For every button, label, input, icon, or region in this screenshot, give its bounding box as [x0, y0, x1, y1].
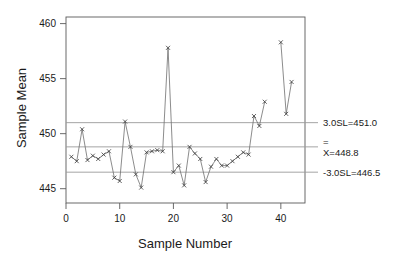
- y-tick-label: 455: [39, 73, 56, 84]
- x-tick-label: 30: [222, 213, 234, 224]
- center-line-overbar: =: [323, 136, 329, 147]
- control-chart: 445450455460 010203040 3.0SL=451.0=X=448…: [0, 0, 402, 269]
- chart-canvas: 445450455460 010203040 3.0SL=451.0=X=448…: [0, 0, 402, 269]
- y-tick-label: 445: [39, 183, 56, 194]
- x-axis-title: Sample Number: [138, 236, 233, 251]
- y-axis-title: Sample Mean: [14, 68, 29, 148]
- x-tick-label: 10: [114, 213, 126, 224]
- center-line-label: X=448.8: [323, 147, 359, 158]
- lower-control-limit-label: -3.0SL=446.5: [323, 167, 380, 178]
- y-tick-label: 450: [39, 128, 56, 139]
- chart-background: [0, 0, 402, 269]
- x-tick-label: 0: [63, 213, 69, 224]
- y-tick-label: 460: [39, 18, 56, 29]
- upper-control-limit-label: 3.0SL=451.0: [323, 117, 377, 128]
- x-tick-label: 20: [168, 213, 180, 224]
- x-tick-label: 40: [275, 213, 287, 224]
